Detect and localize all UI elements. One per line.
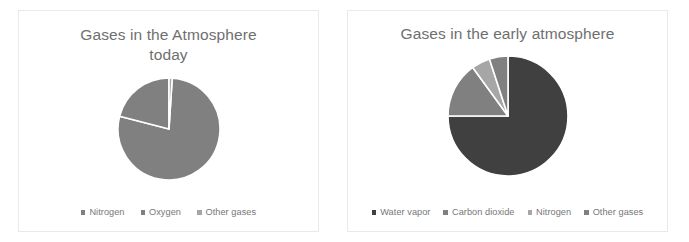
chart-legend-gases-today: NitrogenOxygenOther gases [19,208,318,217]
chart-title-gases-early: Gases in the early atmosphere [348,11,667,44]
legend-item-label: Water vapor [380,208,430,217]
legend-item-label: Other gases [206,208,257,217]
pie-svg-gases-today [117,77,221,181]
pie-chart-gases-today [19,77,318,181]
pie-svg-gases-early [447,55,569,177]
legend-item-label: Nitrogen [536,208,571,217]
legend-swatch-icon [141,210,146,215]
legend-item-water-vapor[interactable]: Water vapor [372,208,431,217]
legend-item-oxygen[interactable]: Oxygen [141,208,181,217]
legend-item-nitrogen[interactable]: Nitrogen [528,208,572,217]
chart-title-line-2: today [54,45,284,65]
legend-item-label: Oxygen [149,208,181,217]
pie-chart-gases-early [348,55,667,177]
chart-legend-gases-early: Water vaporCarbon dioxideNitrogenOther g… [348,208,667,217]
screenshot-root: Gases in the Atmosphere today NitrogenOx… [0,0,689,242]
chart-panel-gases-today: Gases in the Atmosphere today NitrogenOx… [18,10,319,232]
legend-item-other-gases[interactable]: Other gases [584,208,643,217]
legend-swatch-icon [197,210,202,215]
legend-item-carbon-dioxide[interactable]: Carbon dioxide [443,208,514,217]
chart-title-line-1: Gases in the Atmosphere [54,25,284,45]
legend-item-nitrogen[interactable]: Nitrogen [81,208,125,217]
chart-panel-gases-early: Gases in the early atmosphere Water vapo… [347,10,668,232]
legend-item-label: Carbon dioxide [452,208,515,217]
legend-swatch-icon [81,210,86,215]
legend-item-other-gases[interactable]: Other gases [197,208,256,217]
legend-swatch-icon [584,210,589,215]
legend-item-label: Nitrogen [89,208,124,217]
legend-swatch-icon [372,210,377,215]
chart-title-gases-today: Gases in the Atmosphere today [54,11,284,65]
legend-swatch-icon [528,210,533,215]
legend-item-label: Other gases [593,208,644,217]
legend-swatch-icon [443,210,448,215]
